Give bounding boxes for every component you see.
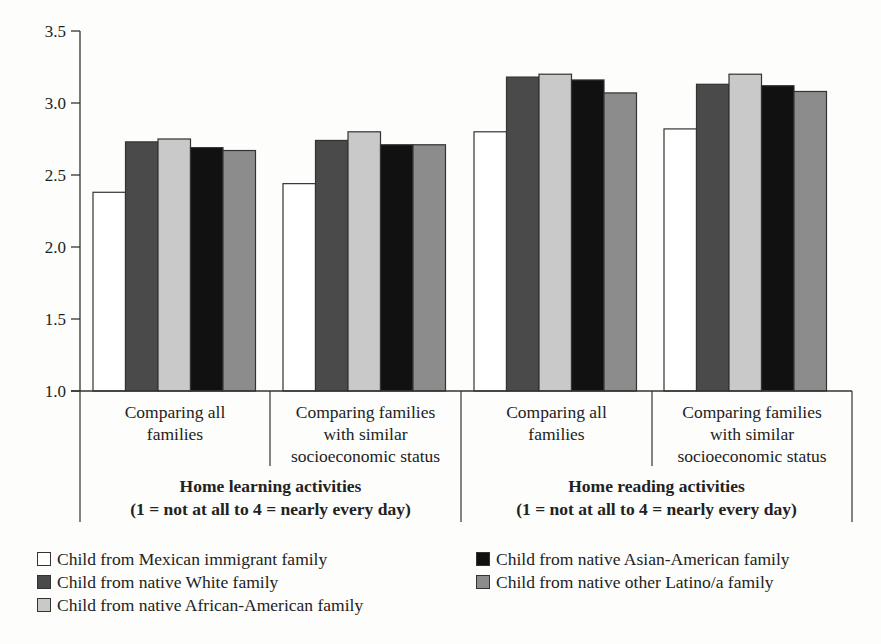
legend-label: Child from native African-American famil…: [57, 594, 363, 616]
category-label: Comparing allfamilies: [80, 401, 270, 445]
bar: [762, 86, 795, 391]
legend-swatch-icon: [37, 552, 51, 566]
legend-item: Child from Mexican immigrant family: [37, 547, 363, 570]
bar: [348, 132, 381, 391]
bar: [572, 80, 605, 391]
legend-swatch-icon: [37, 598, 51, 612]
legend-item: Child from native African-American famil…: [37, 593, 363, 616]
category-label: Comparing allfamilies: [461, 401, 652, 445]
y-tick-label: 3.5: [45, 22, 66, 41]
bar: [126, 142, 159, 391]
bar: [474, 132, 507, 391]
bar: [507, 77, 540, 391]
category-label: Comparing familieswith similarsocioecono…: [652, 401, 852, 467]
y-tick-label: 1.5: [45, 310, 66, 329]
bar: [223, 151, 256, 391]
legend-right: Child from native Asian-American familyC…: [476, 547, 790, 593]
legend-label: Child from native White family: [57, 571, 278, 593]
legend-label: Child from Mexican immigrant family: [57, 548, 327, 570]
legend-item: Child from native other Latino/a family: [476, 570, 790, 593]
legend-item: Child from native Asian-American family: [476, 547, 790, 570]
bar: [729, 74, 762, 391]
legend-label: Child from native other Latino/a family: [496, 571, 774, 593]
category-label: Comparing familieswith similarsocioecono…: [270, 401, 461, 467]
bar: [283, 184, 316, 391]
legend-label: Child from native Asian-American family: [496, 548, 790, 570]
y-tick-label: 1.0: [45, 382, 66, 401]
group-label: Home learning activities(1 = not at all …: [80, 475, 461, 521]
legend-swatch-icon: [476, 552, 490, 566]
bar: [158, 139, 191, 391]
y-tick-label: 2.5: [45, 166, 66, 185]
legend-left: Child from Mexican immigrant familyChild…: [37, 547, 363, 616]
y-axis: 1.01.52.02.53.03.5: [45, 22, 80, 401]
y-tick-label: 2.0: [45, 238, 66, 257]
bar: [191, 148, 224, 391]
bar: [93, 192, 126, 391]
legend-item: Child from native White family: [37, 570, 363, 593]
bar: [539, 74, 572, 391]
bar: [604, 93, 637, 391]
bar: [413, 145, 446, 391]
bars: [93, 74, 827, 391]
bar: [794, 91, 827, 391]
bar: [381, 145, 414, 391]
legend-swatch-icon: [476, 575, 490, 589]
y-tick-label: 3.0: [45, 94, 66, 113]
bar: [697, 84, 730, 391]
legend-swatch-icon: [37, 575, 51, 589]
bar: [664, 129, 697, 391]
group-label: Home reading activities(1 = not at all t…: [461, 475, 852, 521]
bar: [316, 140, 349, 391]
